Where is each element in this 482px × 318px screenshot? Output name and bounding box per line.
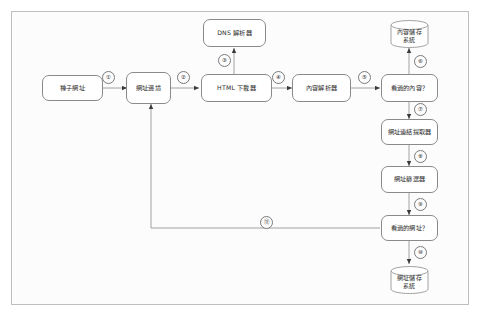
datastore-label-line2: 系統	[397, 36, 422, 44]
node-url-frontier[interactable]: 網址邊境	[126, 72, 171, 104]
datastore-content-storage[interactable]: 內容儲存 系統	[387, 19, 432, 49]
edge-label-text: ⑨	[418, 202, 423, 207]
node-label: 網址篩選器	[394, 175, 425, 183]
node-label: 看過的內容？	[391, 84, 428, 92]
datastore-label-line1: 內容儲存	[397, 28, 422, 36]
node-label: 網址連結提取器	[388, 128, 431, 136]
edge-label-text: ②	[181, 75, 186, 80]
edge-label-text: ⑥	[418, 59, 423, 64]
node-seen-content[interactable]: 看過的內容？	[381, 74, 438, 102]
node-seed-urls[interactable]: 種子網址	[42, 75, 103, 101]
edge-label-text: ⑪	[264, 220, 269, 225]
edge-label-3: ③	[218, 54, 231, 67]
node-html-downloader[interactable]: HTML 下載器	[201, 74, 272, 102]
edge-label-5: ⑤	[358, 71, 371, 84]
diagram-canvas: 種子網址 網址邊境 DNS 解析器 HTML 下載器 內容解析器 看過的內容？ …	[0, 0, 482, 318]
edge-label-2: ②	[177, 71, 190, 84]
edge-label-text: ⑧	[418, 154, 423, 159]
datastore-label-line2: 系統	[397, 282, 422, 290]
edge-label-4: ④	[272, 71, 285, 84]
node-dns-resolver[interactable]: DNS 解析器	[203, 19, 266, 47]
datastore-url-storage[interactable]: 網址儲存 系統	[387, 265, 432, 295]
datastore-label-line1: 網址儲存	[397, 274, 422, 282]
edge-label-text: ①	[106, 75, 111, 80]
node-label: 看過的網址？	[391, 224, 428, 232]
edge-label-text: ④	[276, 75, 281, 80]
edge-label-7: ⑦	[414, 103, 427, 116]
node-label: 網址邊境	[136, 84, 161, 92]
edge-label-text: ③	[222, 58, 227, 63]
node-seen-url[interactable]: 看過的網址？	[381, 215, 438, 241]
node-label: 種子網址	[60, 84, 85, 92]
edge-label-text: ⑦	[418, 107, 423, 112]
edge-label-6: ⑥	[414, 55, 427, 68]
edge-label-text: ⑩	[418, 250, 423, 255]
edge-label-1: ①	[102, 71, 115, 84]
edge-label-text: ⑤	[362, 75, 367, 80]
node-label: 內容解析器	[306, 84, 337, 92]
edge-label-8: ⑧	[414, 150, 427, 163]
node-link-extractor[interactable]: 網址連結提取器	[381, 119, 438, 145]
edge-label-9: ⑨	[414, 198, 427, 211]
edge-label-10: ⑩	[414, 246, 427, 259]
node-label: HTML 下載器	[217, 84, 256, 92]
node-content-parser[interactable]: 內容解析器	[292, 74, 351, 102]
node-url-filter[interactable]: 網址篩選器	[381, 166, 438, 193]
node-label: DNS 解析器	[217, 29, 252, 37]
edge-label-11: ⑪	[260, 216, 273, 229]
